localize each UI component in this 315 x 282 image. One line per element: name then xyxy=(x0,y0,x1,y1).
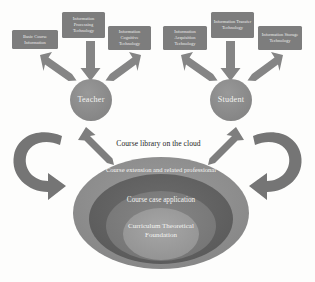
arrow-cognitive-to-teacher xyxy=(106,52,142,81)
node-box-label: Information Cognitive Technology xyxy=(110,29,149,46)
arrow-processing-to-teacher xyxy=(81,41,101,81)
node-box-information-processing-technology[interactable]: Information Processing Technology xyxy=(62,12,105,38)
node-box-label: Information Acquisition Technology xyxy=(165,29,205,46)
node-box-information-storage-technology[interactable]: Information Storage Technology xyxy=(258,26,302,50)
arrow-basic-to-teacher xyxy=(40,52,77,81)
role-label-student: Student xyxy=(201,95,261,104)
node-box-information-transfer-technology[interactable]: Information Transfer Technology xyxy=(211,12,254,38)
arrow-storage-to-student xyxy=(248,52,284,81)
node-box-information-acquisition-technology[interactable]: Information Acquisition Technology xyxy=(163,26,207,50)
arrow-transfer-to-student xyxy=(221,41,241,81)
node-box-label: Information Transfer Technology xyxy=(213,19,252,31)
node-box-label: Basic Course Information xyxy=(14,34,56,46)
node-box-basic-course-information[interactable]: Basic Course Information xyxy=(12,30,58,49)
role-label-teacher: Teacher xyxy=(61,95,121,104)
curved-arrow-left xyxy=(13,132,66,200)
ellipse-label-course-case-application: Course case application xyxy=(86,196,236,205)
ellipse-label-course-extension: Course extension and related professiona… xyxy=(91,166,231,174)
diagram-canvas: Basic Course Information Information Pro… xyxy=(0,0,315,282)
node-box-label: Information Storage Technology xyxy=(260,32,300,44)
node-box-label: Information Processing Technology xyxy=(64,16,103,33)
node-box-information-cognitive-technology[interactable]: Information Cognitive Technology xyxy=(108,26,151,50)
curved-arrow-right xyxy=(249,132,302,200)
cloud-library-label: Course library on the cloud xyxy=(96,139,221,148)
ellipse-label-curriculum-theoretical-foundation: Curriculum Theoretical Foundation xyxy=(116,222,206,240)
arrow-acquisition-to-student xyxy=(181,52,218,81)
